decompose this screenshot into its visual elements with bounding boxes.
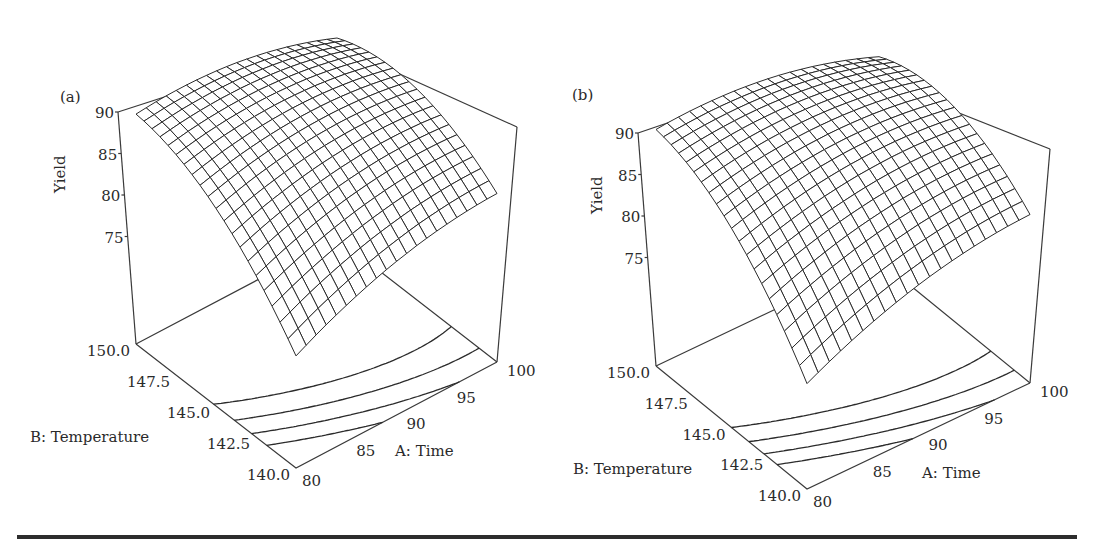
time-tick-label: 95	[984, 410, 1003, 428]
time-tick-label: 85	[873, 463, 892, 481]
response-surface-figure: 90858075150.0147.5145.0142.5140.08085909…	[0, 0, 1105, 543]
temperature-tick-label: 147.5	[127, 373, 170, 391]
time-tick-label: 95	[457, 389, 476, 407]
contour-line	[214, 327, 452, 405]
panel-a-time-axis-title: A: Time	[395, 442, 454, 460]
yield-tick-label: 85	[98, 146, 117, 164]
time-tick-label: 90	[929, 436, 948, 454]
panel-b-time-axis-title: A: Time	[922, 464, 981, 482]
contour-line	[749, 370, 1014, 442]
time-tick-label: 100	[1040, 383, 1069, 401]
panel-a-surface-plot: 90858075150.0147.5145.0142.5140.08085909…	[87, 38, 536, 490]
contour-line	[252, 382, 460, 434]
box-right-vertical-edge	[497, 127, 517, 362]
temperature-tick-label: 145.0	[167, 404, 210, 422]
yield-tick-label: 85	[618, 167, 637, 185]
yield-tick-label: 80	[101, 187, 120, 205]
panel-a-yield-axis-title: Yield	[51, 155, 69, 193]
yield-tick-label: 90	[615, 125, 634, 143]
time-tick-label: 100	[507, 362, 536, 380]
temperature-tick-label: 140.0	[758, 487, 801, 505]
temperature-tick-label: 145.0	[683, 426, 726, 444]
panel-b-surface-plot: 90858075150.0147.5145.0142.5140.08085909…	[607, 57, 1069, 511]
floor-contour-lines	[214, 327, 479, 446]
panel-a-label: (a)	[60, 88, 81, 106]
panel-b-yield-axis-title: Yield	[588, 176, 606, 214]
yield-surface-mesh	[136, 38, 497, 356]
time-tick-label: 90	[407, 415, 426, 433]
time-tick-label: 85	[356, 442, 375, 460]
temperature-tick-label: 142.5	[720, 456, 763, 474]
panel-b-temperature-axis-title: B: Temperature	[573, 460, 692, 478]
temperature-tick-label: 150.0	[87, 342, 130, 360]
time-tick-label: 80	[813, 493, 832, 511]
panel-b-label: (b)	[572, 86, 593, 104]
box-right-vertical-edge	[1030, 149, 1050, 383]
contour-line	[777, 439, 913, 465]
yield-tick-label: 75	[625, 250, 644, 268]
yield-tick-label: 90	[95, 104, 114, 122]
temperature-tick-label: 142.5	[207, 435, 250, 453]
temperature-tick-label: 147.5	[645, 395, 688, 413]
contour-line	[732, 351, 991, 427]
temperature-tick-label: 140.0	[247, 466, 290, 484]
panel-a-temperature-axis-title: B: Temperature	[30, 428, 149, 446]
yield-tick-label: 80	[621, 208, 640, 226]
yield-surface-mesh	[656, 57, 1030, 384]
time-tick-label: 80	[302, 472, 321, 490]
temperature-tick-label: 150.0	[607, 364, 650, 382]
bottom-rule-divider	[17, 535, 1077, 539]
contour-line	[234, 348, 479, 420]
yield-tick-label: 75	[105, 229, 124, 247]
floor-contour-lines	[732, 351, 1015, 465]
